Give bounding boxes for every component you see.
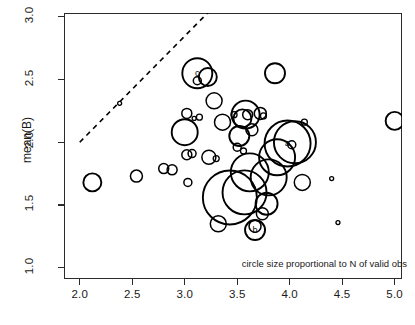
data-bubble: [184, 178, 192, 186]
data-bubble: [206, 93, 222, 109]
y-axis-tick-label: 2.0: [23, 117, 35, 163]
x-axis-tick: [79, 279, 80, 285]
data-bubble: [196, 114, 202, 120]
bubble-label: a: [285, 138, 290, 148]
bubble-layer: [83, 58, 402, 240]
y-axis-tick-label: 3.0: [23, 0, 35, 38]
bubble-label: c: [195, 68, 200, 78]
data-bubble: [118, 101, 122, 105]
x-axis-tick-label: 4.0: [266, 288, 314, 300]
data-bubble: [83, 173, 101, 191]
x-axis-tick-label: 4.5: [318, 288, 366, 300]
y-axis-tick: [58, 16, 64, 17]
bubble-label: b: [253, 225, 258, 235]
data-bubble: [336, 221, 340, 225]
data-bubble: [294, 174, 310, 190]
data-bubble: [265, 63, 285, 83]
y-axis-tick: [58, 204, 64, 205]
x-axis-tick-label: 3.5: [213, 288, 261, 300]
identity-reference-line: [80, 13, 209, 142]
y-axis-tick: [58, 267, 64, 268]
x-axis-tick: [289, 279, 290, 285]
x-axis-tick-label: 5.0: [371, 288, 415, 300]
y-axis-tick-label: 2.5: [23, 55, 35, 101]
data-bubble: [182, 108, 192, 118]
x-axis-tick-label: 2.0: [56, 288, 104, 300]
data-bubble: [386, 112, 402, 130]
scatter-canvas: cba: [64, 13, 402, 279]
x-axis-tick: [342, 279, 343, 285]
x-axis-tick: [394, 279, 395, 285]
data-bubble: [182, 150, 192, 160]
x-axis-tick: [132, 279, 133, 285]
data-bubble: [203, 170, 257, 224]
bubble-scatter-figure: mean(B) cba 2.02.53.03.54.04.55.01.01.52…: [0, 0, 415, 325]
plot-area: cba: [64, 13, 402, 279]
size-legend-caption: circle size proportional to N of valid o…: [242, 258, 407, 269]
data-bubble: [130, 170, 142, 182]
data-bubble: [215, 114, 231, 130]
data-bubble: [172, 119, 198, 145]
x-axis-tick: [237, 279, 238, 285]
x-axis-tick: [184, 279, 185, 285]
data-bubble: [330, 177, 334, 181]
x-axis-tick-label: 3.0: [161, 288, 209, 300]
y-axis-tick-label: 1.5: [23, 180, 35, 226]
y-axis-tick-label: 1.0: [23, 243, 35, 289]
y-axis-tick: [58, 142, 64, 143]
data-bubble: [192, 116, 196, 120]
x-axis-tick-label: 2.5: [108, 288, 156, 300]
y-axis-tick: [58, 79, 64, 80]
